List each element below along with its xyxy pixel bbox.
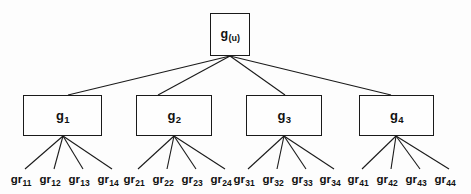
root-node-label: g(u): [220, 28, 239, 41]
root-node-box: g(u): [210, 13, 250, 56]
leaf-label-14: gr14: [98, 174, 119, 186]
edge-group-4-to-leaf-43: [396, 136, 420, 169]
leaf-base-11: gr: [11, 173, 23, 185]
group-node-base-2: g: [167, 108, 175, 123]
leaf-label-41: gr41: [348, 174, 369, 186]
leaf-subscript-12: 12: [51, 178, 60, 188]
tree-diagram-figure: g(u) g1 g2 g3 g4 gr11gr12gr13gr14gr21gr2…: [0, 0, 471, 194]
edge-group-2-to-leaf-23: [174, 136, 196, 169]
group-node-base-3: g: [277, 108, 285, 123]
group-node-box-2: g2: [136, 95, 212, 136]
leaf-label-42: gr42: [377, 174, 398, 186]
edge-root-to-group-1: [68, 56, 230, 95]
edge-root-to-group-2: [158, 56, 230, 95]
leaf-label-44: gr44: [435, 174, 456, 186]
edge-group-1-to-leaf-12: [54, 136, 63, 169]
root-node-subscript: (u): [229, 33, 241, 43]
leaf-label-24: gr24: [211, 174, 232, 186]
leaf-base-14: gr: [98, 173, 110, 185]
leaf-base-21: gr: [124, 173, 136, 185]
leaf-label-11: gr11: [11, 174, 32, 186]
group-node-box-4: g4: [359, 95, 434, 136]
leaf-subscript-43: 43: [417, 178, 426, 188]
leaf-base-24: gr: [211, 173, 223, 185]
group-node-label-1: g1: [56, 109, 69, 122]
group-node-base-4: g: [390, 108, 398, 123]
leaf-label-21: gr21: [124, 174, 145, 186]
edge-group-4-to-leaf-42: [391, 136, 396, 169]
group-node-label-2: g2: [167, 109, 180, 122]
leaf-base-23: gr: [182, 173, 194, 185]
leaf-label-23: gr23: [182, 174, 203, 186]
edge-group-3-to-leaf-34: [284, 136, 334, 169]
leaf-label-43: gr43: [406, 174, 427, 186]
leaf-label-12: gr12: [40, 174, 61, 186]
edge-group-1-to-leaf-11: [25, 136, 63, 169]
leaf-subscript-23: 23: [193, 178, 202, 188]
leaf-base-41: gr: [348, 173, 360, 185]
leaf-subscript-11: 11: [23, 178, 32, 188]
group-node-base-1: g: [56, 108, 64, 123]
leaf-base-22: gr: [153, 173, 165, 185]
root-node-base: g: [220, 27, 228, 41]
leaf-base-32: gr: [263, 173, 275, 185]
edge-group-1-to-leaf-14: [63, 136, 112, 169]
edge-root-to-group-4: [230, 56, 391, 95]
edge-group-2-to-leaf-24: [174, 136, 225, 169]
leaf-label-13: gr13: [69, 174, 90, 186]
leaf-subscript-14: 14: [109, 178, 118, 188]
leaf-subscript-34: 34: [331, 178, 340, 188]
leaf-subscript-41: 41: [359, 178, 368, 188]
group-node-subscript-3: 3: [286, 114, 291, 125]
group-node-box-3: g3: [246, 95, 322, 136]
leaf-label-34: gr34: [320, 174, 341, 186]
edge-group-1-to-leaf-13: [63, 136, 83, 169]
leaf-subscript-21: 21: [135, 178, 144, 188]
leaf-base-42: gr: [377, 173, 389, 185]
leaf-subscript-22: 22: [164, 178, 173, 188]
leaf-subscript-24: 24: [222, 178, 231, 188]
leaf-base-33: gr: [292, 173, 304, 185]
group-node-subscript-4: 4: [398, 114, 403, 125]
leaf-subscript-33: 33: [303, 178, 312, 188]
leaf-label-32: gr32: [263, 174, 284, 186]
leaf-label-33: gr33: [292, 174, 313, 186]
leaf-base-34: gr: [320, 173, 332, 185]
edge-root-to-group-3: [230, 56, 285, 95]
leaf-subscript-32: 32: [274, 178, 283, 188]
leaf-base-12: gr: [40, 173, 52, 185]
group-node-box-1: g1: [23, 95, 102, 136]
group-node-subscript-1: 1: [64, 114, 69, 125]
leaf-subscript-44: 44: [446, 178, 455, 188]
leaf-subscript-13: 13: [80, 178, 89, 188]
leaf-subscript-31: 31: [245, 178, 254, 188]
group-node-subscript-2: 2: [176, 114, 181, 125]
edge-group-4-to-leaf-44: [396, 136, 449, 169]
group-node-label-4: g4: [390, 109, 403, 122]
leaf-base-44: gr: [435, 173, 447, 185]
leaf-label-31: gr31: [234, 174, 255, 186]
leaf-subscript-42: 42: [388, 178, 397, 188]
group-node-label-3: g3: [277, 109, 290, 122]
leaf-base-31: gr: [234, 173, 246, 185]
leaf-base-43: gr: [406, 173, 418, 185]
edge-group-3-to-leaf-33: [284, 136, 306, 169]
leaf-base-13: gr: [69, 173, 81, 185]
edge-group-4-to-leaf-41: [362, 136, 396, 169]
leaf-label-22: gr22: [153, 174, 174, 186]
